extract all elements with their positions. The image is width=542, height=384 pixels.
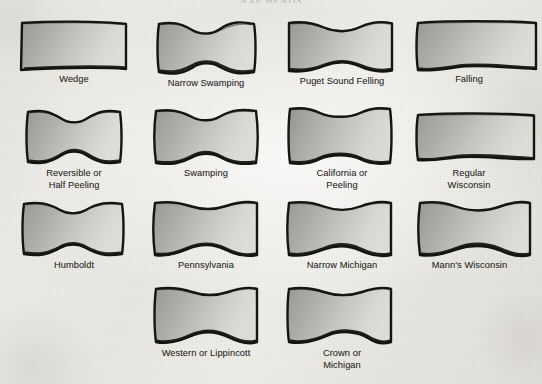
figure-cell-pennsylvania: Pennsylvania [136, 200, 276, 272]
caption-regular-wisconsin: Regular Wisconsin [404, 168, 534, 191]
axe-head-shape-crown-or-michigan [284, 286, 396, 346]
figure-cell-manns-wisconsin: Mann's Wisconsin [402, 200, 537, 272]
caption-california-or-peeling: California or Peeling [272, 168, 412, 191]
figure-cell-humboldt: Humboldt [4, 200, 144, 272]
caption-crown-or-michigan: Crown or Michigan [272, 348, 412, 371]
caption-western-or-lippincott: Western or Lippincott [136, 348, 276, 360]
axe-head-shape-narrow-swamping [150, 20, 262, 76]
figure-cell-swamping: Swamping [136, 108, 276, 180]
caption-narrow-swamping: Narrow Swamping [136, 78, 276, 90]
axe-head-shape-western-or-lippincott [150, 286, 262, 346]
running-head: AXE HEADS [0, 0, 542, 3]
figure-cell-western-or-lippincott: Western or Lippincott [136, 286, 276, 360]
caption-humboldt: Humboldt [4, 260, 144, 272]
axe-head-shape-narrow-michigan [284, 200, 396, 258]
caption-falling: Falling [404, 74, 534, 86]
figure-cell-crown-or-michigan: Crown or Michigan [272, 286, 412, 371]
axe-head-shape-regular-wisconsin [410, 112, 536, 162]
axe-head-shape-wedge [18, 20, 130, 72]
axe-head-shape-falling [410, 20, 538, 72]
figure-cell-falling: Falling [404, 20, 534, 86]
caption-reversible-or-half-peeling: Reversible or Half Peeling [4, 168, 144, 191]
caption-wedge: Wedge [4, 74, 144, 86]
figure-cell-puget-sound-felling: Puget Sound Felling [272, 20, 412, 88]
axe-head-shape-puget-sound-felling [284, 20, 396, 74]
axe-head-shape-reversible-or-half-peeling [18, 108, 130, 166]
caption-puget-sound-felling: Puget Sound Felling [272, 76, 412, 88]
figure-cell-narrow-swamping: Narrow Swamping [136, 20, 276, 90]
caption-swamping: Swamping [136, 168, 276, 180]
figure-cell-california-or-peeling: California or Peeling [272, 106, 412, 191]
caption-manns-wisconsin: Mann's Wisconsin [402, 260, 537, 272]
caption-narrow-michigan: Narrow Michigan [272, 260, 412, 272]
figure-cell-reversible-or-half-peeling: Reversible or Half Peeling [4, 108, 144, 191]
axe-head-shape-manns-wisconsin [414, 200, 532, 258]
axe-head-shape-pennsylvania [150, 200, 262, 258]
axe-head-shape-swamping [150, 108, 262, 166]
axe-head-shape-california-or-peeling [284, 106, 396, 166]
figure-cell-wedge: Wedge [4, 20, 144, 86]
axe-head-shape-humboldt [16, 200, 130, 258]
figure-cell-narrow-michigan: Narrow Michigan [272, 200, 412, 272]
scanned-page: AXE HEADS [0, 0, 542, 384]
figure-cell-regular-wisconsin: Regular Wisconsin [404, 112, 534, 191]
caption-pennsylvania: Pennsylvania [136, 260, 276, 272]
